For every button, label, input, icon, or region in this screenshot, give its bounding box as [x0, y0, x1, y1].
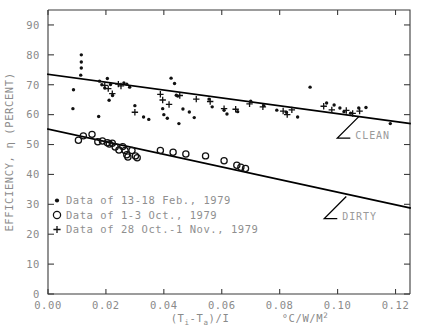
data-point-dot	[71, 107, 74, 110]
data-point-dot	[79, 73, 82, 76]
chart-figure: 0.000.020.040.060.080.100.12 01020304050…	[0, 0, 440, 334]
data-point-dot	[364, 106, 367, 109]
y-tick-label: 60	[26, 108, 40, 120]
y-tick-label: 0	[33, 288, 40, 300]
efficiency-scatter-plot: 0.000.020.040.060.080.100.12 01020304050…	[0, 0, 440, 334]
x-tick-label: 0.02	[92, 299, 120, 311]
legend-item-label[interactable]: Data of 13-18 Feb., 1979	[66, 194, 231, 206]
annotation-label-clean: CLEAN	[355, 130, 390, 141]
y-tick-label: 50	[26, 138, 40, 150]
legend-item-label[interactable]: Data of 1-3 Oct., 1979	[66, 209, 217, 221]
x-tick-label: 0.10	[324, 299, 352, 311]
data-point-dot	[128, 85, 131, 88]
x-tick-label: 0.06	[208, 299, 236, 311]
x-tick-label: 0.12	[382, 299, 410, 311]
legend-marker-dot	[55, 198, 59, 202]
x-tick-label: 0.00	[34, 299, 62, 311]
y-tick-label: 80	[26, 49, 40, 61]
y-tick-label: 40	[26, 168, 40, 180]
data-point-dot	[161, 107, 164, 110]
x-tick-label: 0.04	[150, 299, 178, 311]
data-point-dot	[177, 122, 180, 125]
data-point-dot	[193, 116, 196, 119]
y-axis-title: EFFICIENCY, η (PERCENT)	[3, 72, 15, 231]
data-point-dot	[97, 115, 100, 118]
data-point-dot	[173, 82, 176, 85]
data-point-dot	[166, 117, 169, 120]
data-point-dot	[80, 66, 83, 69]
data-point-dot	[142, 115, 145, 118]
data-point-dot	[211, 105, 214, 108]
data-point-dot	[188, 110, 191, 113]
data-point-dot	[296, 115, 299, 118]
data-point-dot	[308, 85, 311, 88]
x-axis-units: °C/W/M2	[282, 311, 329, 324]
data-point-dot	[80, 53, 83, 56]
data-point-dot	[225, 112, 228, 115]
data-point-dot	[181, 107, 184, 110]
data-point-dot	[72, 88, 75, 91]
y-tick-label: 30	[26, 198, 40, 210]
y-tick-label: 70	[26, 79, 40, 91]
data-point-dot	[162, 113, 165, 116]
data-point-dot	[106, 77, 109, 80]
data-point-dot	[325, 101, 328, 104]
data-point-dot	[80, 60, 83, 63]
data-point-dot	[109, 83, 112, 86]
legend-item-label[interactable]: Data of 28 Oct.-1 Nov., 1979	[66, 223, 258, 235]
data-point-dot	[133, 104, 136, 107]
data-point-dot	[236, 110, 239, 113]
data-point-dot	[169, 76, 172, 79]
data-point-dot	[107, 99, 110, 102]
data-point-dot	[122, 81, 125, 84]
x-tick-label: 0.08	[266, 299, 294, 311]
data-point-dot	[147, 118, 150, 121]
data-point-dot	[332, 103, 335, 106]
data-point-dot	[125, 82, 128, 85]
data-point-dot	[98, 79, 101, 82]
y-tick-label: 10	[26, 258, 40, 270]
data-point-dot	[275, 108, 278, 111]
data-point-dot	[389, 122, 392, 125]
y-tick-label: 20	[26, 228, 40, 240]
data-point-dot	[338, 106, 341, 109]
annotation-label-dirty: DIRTY	[342, 211, 377, 222]
y-tick-label: 90	[26, 19, 40, 31]
